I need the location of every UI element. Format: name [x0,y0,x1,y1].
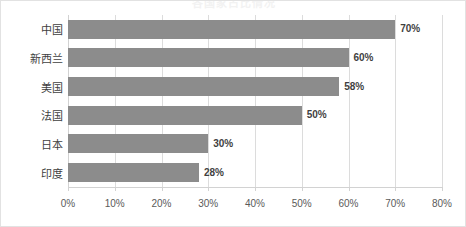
x-tick-label: 10% [105,198,125,209]
x-tick-label: 30% [198,198,218,209]
bar-row[interactable]: 70% [68,15,442,44]
bar[interactable] [68,106,302,125]
category-label: 法国 [1,101,63,130]
bar-value-label: 58% [344,82,364,92]
gridline-80 [442,15,443,187]
category-label: 印度 [1,158,63,187]
bar-value-label: 50% [307,110,327,120]
bar-chart: 各国家占比情况 中国新西兰美国法国日本印度 70%60%58%50%30%28%… [0,0,466,227]
plot-area: 70%60%58%50%30%28% [68,15,442,187]
x-tick-label: 60% [338,198,358,209]
bar-row[interactable]: 58% [68,72,442,101]
x-tick-label: 40% [245,198,265,209]
x-tick [349,187,350,191]
bar[interactable] [68,163,199,182]
category-label: 美国 [1,72,63,101]
bar-value-label: 28% [204,168,224,178]
x-tick-label: 70% [385,198,405,209]
x-tick [162,187,163,191]
x-tick [442,187,443,191]
bar-row[interactable]: 30% [68,130,442,159]
category-label: 新西兰 [1,44,63,73]
bar[interactable] [68,134,208,153]
bar[interactable] [68,77,339,96]
bar[interactable] [68,20,395,39]
bar-row[interactable]: 50% [68,101,442,130]
bar[interactable] [68,48,349,67]
bar-row[interactable]: 60% [68,44,442,73]
x-tick-label: 80% [432,198,452,209]
category-axis: 中国新西兰美国法国日本印度 [1,15,63,187]
chart-title: 各国家占比情况 [1,0,466,10]
x-tick-label: 50% [292,198,312,209]
bar-value-label: 70% [400,24,420,34]
bar-value-label: 30% [213,139,233,149]
x-tick [255,187,256,191]
bar-row[interactable]: 28% [68,158,442,187]
x-tick [302,187,303,191]
bar-value-label: 60% [354,53,374,63]
x-tick-label: 20% [151,198,171,209]
x-tick [395,187,396,191]
category-label: 中国 [1,15,63,44]
bar-rows: 70%60%58%50%30%28% [68,15,442,187]
x-tick [68,187,69,191]
x-tick [208,187,209,191]
x-tick [115,187,116,191]
x-tick-label: 0% [61,198,75,209]
category-label: 日本 [1,130,63,159]
